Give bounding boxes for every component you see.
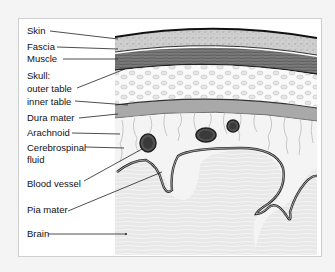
label-inner-table: inner table [27,96,71,107]
label-cerebrospinal: Cerebrospinal [27,142,86,153]
label-blood-vessel: Blood vessel [27,178,81,189]
label-arachnoid: Arachnoid [27,127,70,138]
label-skull: Skull: [27,70,50,81]
label-pia-mater: Pia mater [27,204,68,215]
label-muscle: Muscle [27,53,57,64]
label-brain: Brain [27,228,49,239]
label-fluid: fluid [27,154,44,165]
label-dura-mater: Dura mater [27,112,75,123]
label-fascia: Fascia [27,41,55,52]
label-outer-table: outer table [27,83,72,94]
label-skin: Skin [27,25,45,36]
